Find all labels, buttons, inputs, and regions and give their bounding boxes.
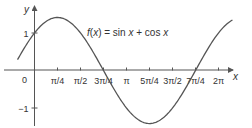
function-label: f(x) = sin x + cos x: [87, 27, 169, 38]
x-tick-label: 3π/2: [163, 76, 182, 86]
origin-label: 0: [22, 75, 27, 85]
x-axis-label: x: [232, 71, 239, 82]
function-plot: x y 0 π/4π/23π/4π5π/43π/27π/42π 1−1 f(x)…: [0, 0, 252, 128]
x-tick-label: 7π/4: [186, 76, 205, 86]
x-tick-label: π/2: [74, 76, 88, 86]
x-tick-label: π/4: [51, 76, 65, 86]
x-tick-label: 3π/4: [94, 76, 113, 86]
y-tick-label: 1: [23, 29, 28, 39]
x-tick-label: π: [123, 76, 129, 86]
y-axis-label: y: [23, 4, 30, 15]
x-tick-label: 2π: [213, 76, 224, 86]
x-tick-label: 5π/4: [140, 76, 159, 86]
y-tick-label: −1: [18, 104, 28, 114]
